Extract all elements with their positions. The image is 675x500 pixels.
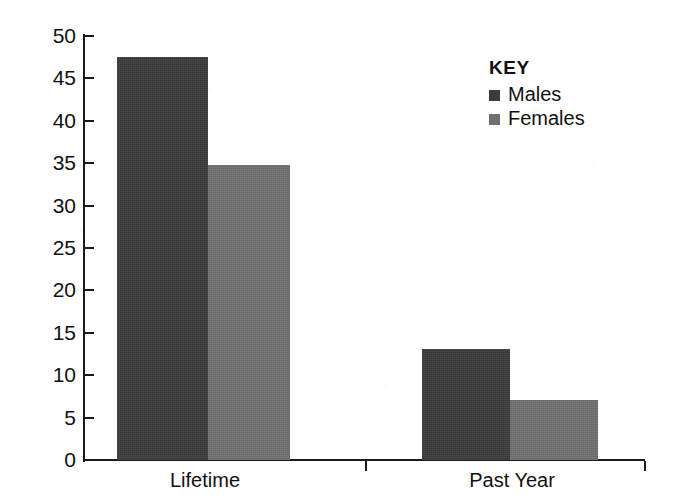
bar-females-past-year xyxy=(510,400,598,460)
x-tick-1 xyxy=(644,461,646,471)
x-category-label-lifetime: Lifetime xyxy=(115,470,295,490)
legend-swatch-females-icon xyxy=(489,114,500,125)
legend-label-females: Females xyxy=(508,107,585,129)
y-tick-label-40: 40 xyxy=(53,110,76,131)
y-tick-label-0: 0 xyxy=(64,449,76,470)
y-tick-label-5: 5 xyxy=(64,407,76,428)
y-tick-label-10: 10 xyxy=(53,364,76,385)
y-tick-label-35: 35 xyxy=(53,152,76,173)
y-tick-label-20: 20 xyxy=(53,279,76,300)
y-tick-label-15: 15 xyxy=(53,322,76,343)
y-tick-label-50: 50 xyxy=(53,25,76,46)
legend-label-males: Males xyxy=(508,83,561,105)
legend-swatch-males-icon xyxy=(489,90,500,101)
legend-item-females: Females xyxy=(489,106,659,130)
bar-males-past-year xyxy=(422,349,510,460)
y-tick-label-30: 30 xyxy=(53,195,76,216)
legend: KEY Males Females xyxy=(489,57,659,130)
legend-title: KEY xyxy=(489,57,659,79)
y-tick-label-45: 45 xyxy=(53,67,76,88)
legend-item-males: Males xyxy=(489,82,659,106)
x-category-label-past-year: Past Year xyxy=(422,470,602,490)
bar-females-lifetime xyxy=(208,165,290,460)
y-tick-label-25: 25 xyxy=(53,237,76,258)
bar-chart: 50454035302520151050 LifetimePast Year K… xyxy=(0,0,675,500)
x-tick-0 xyxy=(365,461,367,471)
bar-males-lifetime xyxy=(117,57,208,460)
